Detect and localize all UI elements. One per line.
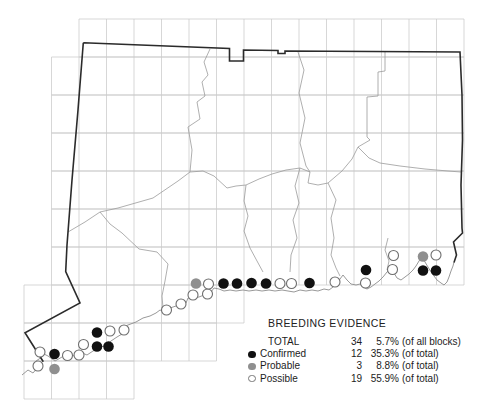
legend-percent: 55.9% [362, 373, 399, 385]
legend-percent: 8.8% [362, 360, 399, 372]
confirmed-dot [246, 278, 257, 289]
probable-dot [418, 251, 429, 262]
possible-dot [35, 347, 45, 357]
possible-dot [330, 277, 340, 287]
legend-label: TOTAL [260, 336, 320, 348]
possible-dot [431, 250, 441, 260]
confirmed-dot [431, 265, 442, 276]
possible-dot [33, 361, 43, 371]
legend-count: 12 [320, 348, 362, 360]
probable-dot [49, 364, 60, 375]
possible-dot [79, 340, 89, 350]
confirmed-dot [304, 278, 315, 289]
confirmed-dot [92, 327, 103, 338]
legend-label: Probable [260, 360, 320, 372]
legend-label: Possible [260, 373, 320, 385]
confirmed-dot [418, 265, 429, 276]
atlas-map-figure: BREEDING EVIDENCE TOTAL 34 5.7% (of all … [0, 0, 490, 417]
confirmed-dot [92, 341, 103, 352]
legend-note: (of total) [399, 360, 439, 372]
legend-row-total: TOTAL 34 5.7% (of all blocks) [246, 336, 486, 348]
possible-dot-icon [246, 375, 260, 383]
possible-dot [204, 279, 214, 289]
probable-dot [191, 278, 202, 289]
possible-dot [275, 279, 285, 289]
legend-percent: 5.7% [362, 336, 399, 348]
county-lines [68, 49, 461, 308]
legend-note: (of total) [399, 348, 439, 360]
legend-count: 34 [320, 336, 362, 348]
possible-dot [287, 279, 297, 289]
confirmed-dot [361, 265, 372, 276]
confirmed-dot [232, 278, 243, 289]
legend-label: Confirmed [260, 348, 320, 360]
possible-dot [63, 351, 73, 361]
possible-dot [389, 251, 399, 261]
confirmed-dot-icon [246, 351, 260, 359]
possible-dot [162, 305, 172, 315]
confirmed-dot [103, 341, 114, 352]
probable-dot-icon [246, 363, 260, 371]
possible-dot [74, 350, 84, 360]
legend-row-confirmed: Confirmed 12 35.3% (of total) [246, 348, 486, 360]
confirmed-dot [261, 278, 272, 289]
legend-percent: 35.3% [362, 348, 399, 360]
possible-dot [176, 299, 186, 309]
possible-dot [188, 290, 198, 300]
legend-row-possible: Possible 19 55.9% (of total) [246, 373, 486, 385]
possible-dot [361, 278, 371, 288]
confirmed-dot [49, 349, 60, 360]
legend-marker-none [246, 338, 260, 346]
legend-note: (of all blocks) [399, 336, 461, 348]
legend-note: (of total) [399, 373, 439, 385]
confirmed-dot [218, 278, 229, 289]
legend-count: 3 [320, 360, 362, 372]
legend: BREEDING EVIDENCE TOTAL 34 5.7% (of all … [246, 317, 486, 385]
legend-title: BREEDING EVIDENCE [268, 317, 486, 330]
possible-dot [105, 326, 115, 336]
possible-dot [203, 289, 213, 299]
possible-dot [119, 325, 129, 335]
possible-dot [388, 265, 398, 275]
legend-row-probable: Probable 3 8.8% (of total) [246, 360, 486, 372]
legend-count: 19 [320, 373, 362, 385]
